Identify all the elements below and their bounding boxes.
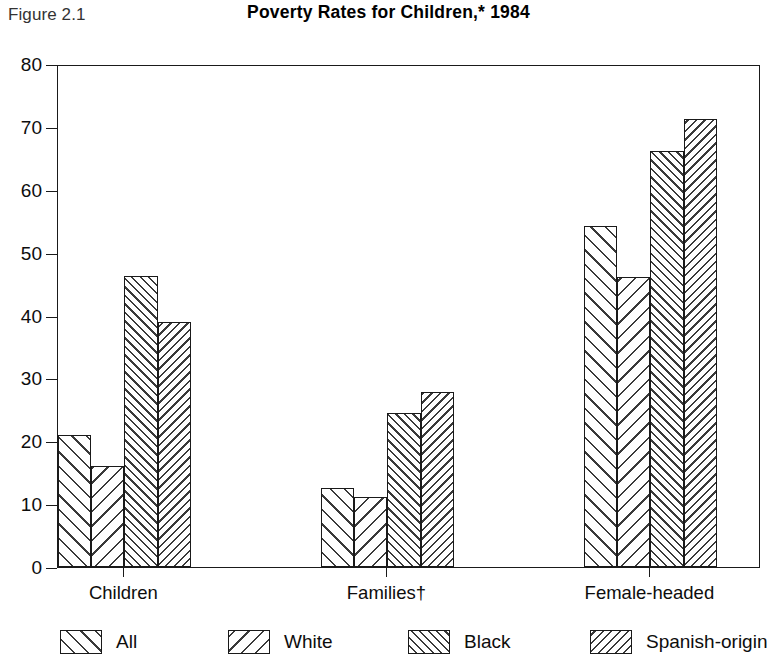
plot-area — [57, 65, 760, 568]
y-axis-tick-mark — [46, 505, 57, 506]
chart-title: Poverty Rates for Children,* 1984 — [0, 2, 777, 23]
legend-label: Black — [464, 631, 510, 653]
y-axis-tick-mark — [46, 317, 57, 318]
x-axis-tick-mark — [386, 568, 387, 577]
bars-layer — [58, 66, 759, 567]
y-axis-tick-mark — [46, 379, 57, 380]
y-axis-tick-label: 70 — [0, 117, 42, 139]
x-axis-group-label: Children — [89, 582, 158, 604]
y-axis-tick-mark — [46, 568, 57, 569]
x-axis-group-label: Female-headed — [585, 582, 715, 604]
bar — [650, 151, 683, 567]
legend-label: White — [284, 631, 333, 653]
bar — [387, 413, 420, 567]
legend-swatch — [60, 630, 102, 654]
y-axis-tick-mark — [46, 254, 57, 255]
bar — [321, 488, 354, 567]
bar — [58, 435, 91, 567]
x-axis: ChildrenFamilies†Female-headed — [57, 568, 760, 618]
x-axis-group-label: Families† — [347, 582, 426, 604]
y-axis-tick-label: 10 — [0, 494, 42, 516]
x-axis-tick-mark — [123, 568, 124, 577]
bar — [354, 497, 387, 567]
y-axis-tick-mark — [46, 128, 57, 129]
bar — [684, 119, 717, 567]
legend-item: All — [60, 627, 137, 657]
legend-item: Black — [408, 627, 510, 657]
bar — [91, 466, 124, 567]
bar — [617, 277, 650, 567]
bar — [158, 322, 191, 567]
y-axis-tick-label: 60 — [0, 180, 42, 202]
legend-label: Spanish-origin — [646, 631, 767, 653]
bar — [124, 276, 157, 567]
legend-item: Spanish-origin — [590, 627, 767, 657]
chart-legend: AllWhiteBlackSpanish-origin — [0, 627, 777, 667]
y-axis-tick-label: 20 — [0, 431, 42, 453]
legend-item: White — [228, 627, 333, 657]
y-axis-tick-label: 80 — [0, 54, 42, 76]
y-axis-tick-label: 30 — [0, 368, 42, 390]
y-axis-tick-mark — [46, 65, 57, 66]
y-axis-tick-mark — [46, 191, 57, 192]
bar — [421, 392, 454, 567]
figure-container: Figure 2.1 Poverty Rates for Children,* … — [0, 0, 777, 671]
legend-label: All — [116, 631, 137, 653]
y-axis-tick-label: 50 — [0, 243, 42, 265]
legend-swatch — [590, 630, 632, 654]
y-axis-tick-mark — [46, 442, 57, 443]
legend-swatch — [228, 630, 270, 654]
x-axis-tick-mark — [649, 568, 650, 577]
legend-swatch — [408, 630, 450, 654]
y-axis-tick-label: 40 — [0, 306, 42, 328]
y-axis-tick-label: 0 — [0, 557, 42, 579]
bar — [584, 226, 617, 567]
